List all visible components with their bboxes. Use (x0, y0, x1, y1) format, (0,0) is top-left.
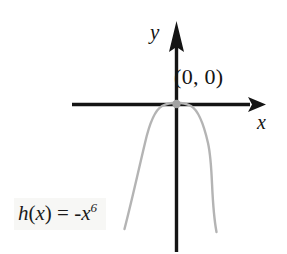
y-axis-label: y (150, 22, 159, 43)
x-axis-label: x (257, 112, 266, 132)
function-equals-sign: = (57, 201, 69, 225)
origin-point-marker (172, 100, 180, 108)
function-paren-close: ) (45, 201, 52, 225)
graph-figure: y x (0, 0) h(x) = -x6 (0, 0, 287, 254)
x-axis-arrowhead (248, 97, 266, 112)
function-equation-label: h(x) = -x6 (14, 198, 106, 230)
function-paren-open: ( (29, 201, 36, 225)
function-exponent: 6 (91, 200, 98, 215)
function-variable: x (36, 201, 45, 225)
function-name: h (18, 201, 29, 225)
function-base: x (81, 201, 90, 225)
function-curve (125, 103, 217, 232)
origin-coordinate-label: (0, 0) (174, 66, 223, 88)
